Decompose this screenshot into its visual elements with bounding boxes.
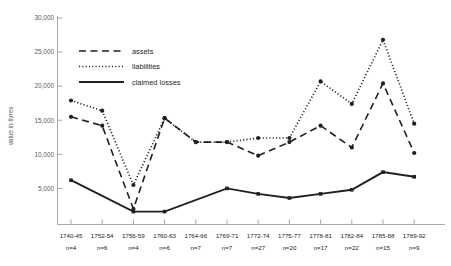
- data-point-assets: [100, 124, 104, 128]
- x-tick-count-label: n=9: [409, 244, 420, 251]
- x-tick-label: 1752-54: [91, 232, 114, 239]
- x-tick-count-label: n=27: [251, 244, 265, 251]
- x-tick-count-label: n=6: [97, 244, 108, 251]
- data-point-assets: [412, 151, 416, 155]
- data-point-liabilities: [69, 98, 73, 102]
- x-tick-count-label: n=4: [66, 244, 77, 251]
- data-point-claimed-losses: [132, 210, 136, 214]
- data-point-claimed-losses: [69, 178, 73, 182]
- y-axis-title: value in livres: [7, 107, 14, 146]
- x-tick-label: 1789-92: [403, 232, 426, 239]
- x-tick-label: 1769-71: [216, 232, 239, 239]
- data-point-liabilities: [163, 116, 167, 120]
- data-point-liabilities: [287, 136, 291, 140]
- x-tick-label: 1782-84: [340, 232, 363, 239]
- data-point-claimed-losses: [319, 192, 323, 196]
- data-point-liabilities: [225, 140, 229, 144]
- x-tick-count-label: n=4: [128, 244, 139, 251]
- x-tick-label: 1764-66: [184, 232, 207, 239]
- data-point-assets: [350, 145, 354, 149]
- y-axis: 5,00010,00015,00020,00025,00030,000: [34, 14, 62, 224]
- legend-label-claimed-losses: claimed losses: [132, 78, 181, 87]
- x-tick-label: 1775-77: [278, 232, 301, 239]
- data-point-claimed-losses: [412, 175, 416, 179]
- x-tick-count-label: n=6: [159, 244, 170, 251]
- chart-legend: assetsliabilitiesclaimed losses: [79, 47, 181, 87]
- data-point-claimed-losses: [350, 188, 354, 192]
- data-point-liabilities: [350, 102, 354, 106]
- series-layer: [69, 38, 416, 214]
- chart-container: 5,00010,00015,00020,00025,00030,000 1740…: [0, 0, 451, 266]
- data-point-assets: [256, 154, 260, 158]
- data-point-liabilities: [319, 79, 323, 83]
- data-point-liabilities: [256, 136, 260, 140]
- data-point-liabilities: [412, 122, 416, 126]
- y-axis-title-text: value in livres: [7, 107, 14, 146]
- data-point-liabilities: [381, 38, 385, 42]
- x-tick-count-label: n=15: [376, 244, 390, 251]
- x-tick-label: 1740-45: [60, 232, 83, 239]
- y-tick-label: 20,000: [34, 82, 54, 89]
- x-tick-count-label: n=7: [191, 244, 202, 251]
- data-point-claimed-losses: [163, 210, 167, 214]
- x-tick-label: 1785-88: [372, 232, 395, 239]
- x-tick-label: 1756-59: [122, 232, 145, 239]
- data-point-claimed-losses: [225, 187, 229, 191]
- x-tick-label: 1760-63: [153, 232, 176, 239]
- x-tick-count-label: n=22: [345, 244, 359, 251]
- data-point-assets: [69, 115, 73, 119]
- data-point-assets: [287, 140, 291, 144]
- data-point-claimed-losses: [256, 192, 260, 196]
- x-tick-count-label: n=17: [314, 244, 328, 251]
- x-tick-label: 1772-74: [247, 232, 270, 239]
- x-tick-count-label: n=20: [282, 244, 296, 251]
- y-tick-label: 5,000: [38, 185, 54, 192]
- x-axis: 1740-45n=41752-54n=61756-59n=41760-63n=6…: [58, 220, 446, 252]
- line-chart: 5,00010,00015,00020,00025,00030,000 1740…: [0, 0, 451, 266]
- y-tick-label: 15,000: [34, 117, 54, 124]
- y-tick-label: 30,000: [34, 14, 54, 21]
- series-line-liabilities: [71, 40, 414, 185]
- x-tick-count-label: n=7: [222, 244, 233, 251]
- y-tick-label: 25,000: [34, 48, 54, 55]
- series-line-assets: [71, 83, 414, 208]
- data-point-assets: [381, 81, 385, 85]
- data-point-liabilities: [194, 140, 198, 144]
- legend-label-liabilities: liabilities: [132, 62, 160, 71]
- y-tick-label: 10,000: [34, 151, 54, 158]
- legend-label-assets: assets: [132, 47, 154, 56]
- x-tick-label: 1778-81: [309, 232, 332, 239]
- series-line-claimed-losses: [71, 172, 414, 212]
- data-point-claimed-losses: [381, 170, 385, 174]
- data-point-assets: [319, 124, 323, 128]
- data-point-liabilities: [131, 183, 135, 187]
- data-point-claimed-losses: [288, 196, 292, 200]
- data-point-liabilities: [100, 109, 104, 113]
